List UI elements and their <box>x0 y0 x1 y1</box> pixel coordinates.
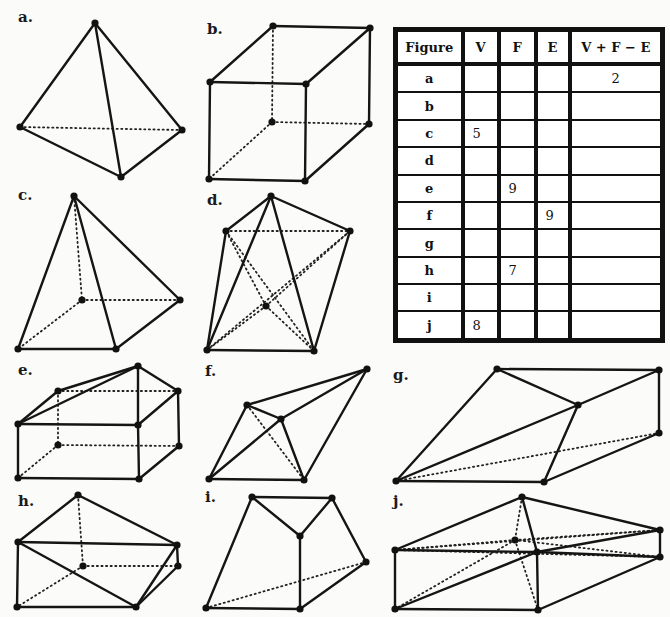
visible-edge <box>306 28 370 84</box>
cell-vertices <box>463 147 499 174</box>
visible-edge <box>395 497 522 550</box>
visible-edge <box>58 366 138 391</box>
visible-edge <box>18 542 177 545</box>
figure-label: j. <box>391 492 404 510</box>
figure-label: e. <box>18 361 33 379</box>
visible-edge <box>138 391 178 425</box>
cell-figure: b <box>396 92 463 119</box>
vertex-dot <box>248 493 255 500</box>
vertex-dot <box>511 536 518 543</box>
vertex-dot <box>132 603 139 610</box>
figure-f: f. <box>205 362 371 484</box>
cell-faces <box>499 64 536 92</box>
vertex-dot <box>493 365 500 372</box>
cell-figure: d <box>396 147 463 174</box>
vertex-dot <box>202 604 209 611</box>
vertex-dot <box>134 362 141 369</box>
vertex-dot <box>301 177 308 184</box>
vertex-dot <box>277 415 284 422</box>
figure-e: e. <box>14 361 182 483</box>
cell-faces <box>499 147 536 174</box>
figure-d: d. <box>203 191 353 355</box>
vertex-dot <box>267 192 274 199</box>
figure-j: j. <box>391 492 664 614</box>
cell-faces: 7 <box>499 257 536 284</box>
figure-a: a. <box>16 8 185 181</box>
visible-edge <box>136 545 177 607</box>
cell-faces <box>499 284 536 311</box>
visible-edge <box>209 405 247 479</box>
visible-edge <box>395 609 538 610</box>
vertex-dot <box>269 22 276 29</box>
visible-edge <box>396 369 497 481</box>
vertex-dot <box>656 553 663 560</box>
visible-edge <box>252 497 332 498</box>
vertex-dot <box>135 475 142 482</box>
visible-edge <box>20 23 95 127</box>
vertex-dot <box>78 296 85 303</box>
cell-vertices <box>463 175 499 202</box>
vertex-dot <box>366 24 373 31</box>
visible-edge <box>522 497 660 530</box>
vertex-dot <box>243 401 250 408</box>
cell-faces: 9 <box>499 175 536 202</box>
cell-euler-sum <box>570 284 663 311</box>
visible-edge <box>18 196 74 349</box>
visible-edge <box>522 497 537 552</box>
vertex-dot <box>302 80 309 87</box>
visible-edge <box>209 179 305 181</box>
cell-vertices <box>463 92 499 119</box>
vertex-dot <box>134 421 141 428</box>
table-row: d <box>396 147 663 174</box>
vertex-dot <box>14 420 21 427</box>
visible-edge <box>396 481 544 482</box>
vertex-dot <box>363 365 370 372</box>
visible-edge <box>17 542 18 607</box>
figure-g: g. <box>392 365 662 485</box>
figure-h: h. <box>13 491 181 610</box>
vertex-dot <box>391 546 398 553</box>
vertex-dot <box>203 346 210 353</box>
visible-edge <box>209 479 304 480</box>
vertex-dot <box>112 345 119 352</box>
visible-edge <box>395 552 537 609</box>
header-figure: Figure <box>396 30 463 65</box>
table-row: h7 <box>396 257 663 284</box>
cell-figure: e <box>396 175 463 202</box>
vertex-dot <box>173 541 180 548</box>
cell-figure: i <box>396 284 463 311</box>
visible-edge <box>273 26 370 28</box>
cell-edges <box>536 175 570 202</box>
vertex-dot <box>365 120 372 127</box>
vertex-dot <box>205 475 212 482</box>
cell-edges <box>536 147 570 174</box>
vertex-dot <box>296 532 303 539</box>
hidden-edge <box>272 122 369 124</box>
vertex-dot <box>540 478 547 485</box>
vertex-dot <box>178 126 185 133</box>
cell-figure: c <box>396 120 463 147</box>
vertex-dot <box>392 477 399 484</box>
visible-edge <box>206 497 252 608</box>
hidden-edge <box>396 433 659 481</box>
hidden-edge <box>272 26 273 122</box>
cell-vertices <box>463 229 499 256</box>
hidden-edge <box>226 231 314 351</box>
cell-vertices <box>463 284 499 311</box>
cell-vertices: 5 <box>463 120 499 147</box>
visible-edge <box>497 369 659 370</box>
visible-edge <box>300 562 366 609</box>
vertex-dot <box>574 401 581 408</box>
visible-edge <box>207 196 271 350</box>
vertex-dot <box>362 558 369 565</box>
vertex-dot <box>391 605 398 612</box>
cell-faces <box>499 120 536 147</box>
cell-euler-sum <box>570 92 663 119</box>
cell-vertices <box>463 64 499 92</box>
visible-edge <box>538 557 660 610</box>
table-header-row: Figure V F E V + F − E <box>396 30 663 65</box>
hidden-edge <box>207 231 350 350</box>
figure-label: g. <box>393 366 409 384</box>
table-row: i <box>396 284 663 311</box>
figure-c: c. <box>14 186 183 353</box>
